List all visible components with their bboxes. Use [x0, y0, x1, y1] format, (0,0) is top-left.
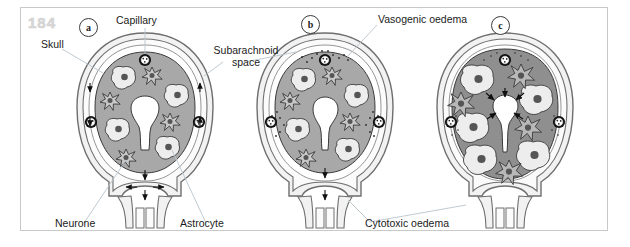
diagram-artwork	[0, 0, 630, 247]
label-neurone: Neurone	[55, 217, 95, 229]
panel-a-illustration	[77, 33, 213, 228]
panel-letter-c: c	[491, 16, 510, 35]
label-subarachnoid-space: Subarachnoid space	[211, 44, 281, 68]
panel-letter-a: a	[79, 18, 98, 37]
label-capillary: Capillary	[116, 14, 157, 26]
label-astrocyte: Astrocyte	[180, 217, 224, 229]
panel-letter-b: b	[301, 15, 320, 34]
panel-c-illustration	[437, 33, 573, 228]
label-subarachnoid-space-line2: space	[211, 56, 281, 68]
label-vasogenic-oedema: Vasogenic oedema	[378, 13, 467, 25]
label-subarachnoid-space-line1: Subarachnoid	[211, 44, 281, 56]
label-skull: Skull	[41, 38, 64, 50]
figure-cerebral-oedema: 184	[0, 0, 630, 247]
label-cytotoxic-oedema: Cytotoxic oedema	[365, 217, 449, 229]
